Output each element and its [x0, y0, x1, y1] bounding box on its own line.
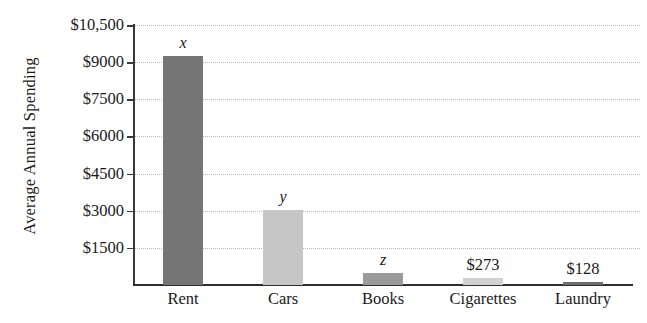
bar-chart-figure: Average Annual Spending $1500$3000$4500$…: [0, 0, 647, 323]
x-axis-tick-labels: RentCarsBooksCigarettesLaundry: [133, 289, 633, 323]
bar-books: [363, 273, 403, 285]
bar-value-label: $128: [533, 261, 633, 278]
bar-value-label: $273: [433, 257, 533, 274]
y-axis-tick-label: $6000: [83, 128, 124, 145]
bar-series: xyz$273$128: [133, 25, 633, 285]
y-axis-tick-label: $9000: [83, 54, 124, 71]
x-axis-tick-label-laundry: Laundry: [523, 289, 643, 309]
bar-cigarettes: [463, 278, 503, 285]
bar-laundry: [563, 282, 603, 286]
y-axis-tick-label: $3000: [83, 203, 124, 220]
y-axis-tick-labels: $1500$3000$4500$6000$7500$9000$10,500: [0, 0, 128, 323]
bar-value-label: x: [133, 35, 233, 51]
y-axis-tick-label: $4500: [83, 166, 124, 183]
y-axis-tick-label: $7500: [83, 91, 124, 108]
y-axis-tick-label: $10,500: [70, 17, 124, 34]
bar-value-label: y: [233, 189, 333, 205]
y-axis-tick-label: $1500: [83, 240, 124, 257]
bar-cars: [263, 210, 303, 285]
bar-rent: [163, 56, 203, 285]
bar-value-label: z: [333, 252, 433, 268]
